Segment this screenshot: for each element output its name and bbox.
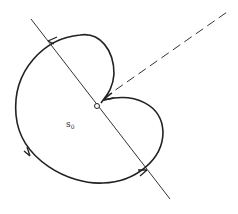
contour-diagram: s0 (0, 0, 238, 214)
dashed-ray (104, 10, 230, 98)
origin-point (95, 104, 100, 109)
region-label: s0 (66, 119, 75, 130)
arrow-icon-inner (103, 93, 114, 100)
straight-line (31, 19, 170, 199)
